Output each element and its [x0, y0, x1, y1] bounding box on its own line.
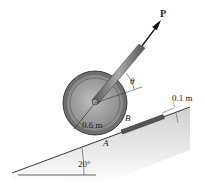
point-b-label: B — [125, 113, 131, 123]
incline-angle-label: 20° — [78, 159, 91, 169]
point-a-label: A — [102, 138, 109, 148]
force-label: P — [160, 8, 166, 19]
axle-pin — [92, 99, 98, 105]
step-height-label: 0.1 m — [172, 93, 193, 103]
angle-label: θ — [130, 76, 135, 86]
wheel-on-incline-diagram: P θ 0.6 m 0.1 m A B 20° — [0, 0, 206, 192]
force-arrow-p — [142, 20, 161, 46]
arrowhead-icon — [152, 20, 161, 30]
radius-label: 0.6 m — [82, 120, 103, 130]
